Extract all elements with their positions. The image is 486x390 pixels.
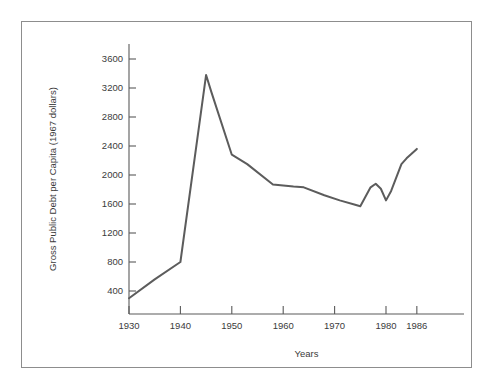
x-axis-title: Years — [295, 348, 319, 359]
x-axis-tick-label: 1970 — [324, 320, 345, 331]
x-axis-tick-label: 1940 — [170, 320, 191, 331]
y-axis-tick-label: 1200 — [102, 227, 123, 238]
x-axis-tick-label: 1930 — [118, 320, 139, 331]
y-axis-tick-label: 3600 — [102, 53, 123, 64]
x-axis-tick-label: 1986 — [406, 320, 427, 331]
chart-page: 4008001200160020002400280032003600193019… — [0, 0, 486, 390]
figure-frame: 4008001200160020002400280032003600193019… — [21, 21, 472, 368]
x-axis-tick-label: 1950 — [221, 320, 242, 331]
y-axis-title: Gross Public Debt per Capita (1967 dolla… — [47, 87, 58, 271]
y-axis-tick-label: 2400 — [102, 140, 123, 151]
x-axis-tick-label: 1960 — [273, 320, 294, 331]
y-axis-tick-label: 2000 — [102, 169, 123, 180]
line-chart: 4008001200160020002400280032003600193019… — [22, 22, 471, 367]
data-series-line — [129, 75, 417, 298]
y-axis-tick-label: 3200 — [102, 82, 123, 93]
y-axis-tick-label: 400 — [107, 285, 123, 296]
y-axis-tick-label: 800 — [107, 256, 123, 267]
x-axis-tick-label: 1980 — [375, 320, 396, 331]
y-axis-tick-label: 2800 — [102, 111, 123, 122]
y-axis-tick-label: 1600 — [102, 198, 123, 209]
